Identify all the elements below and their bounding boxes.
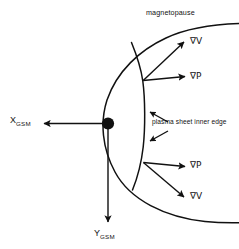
gradP-upper-arrow (143, 77, 185, 81)
gradV-lower-arrow (143, 163, 184, 198)
x-axis-label: XGSM (10, 116, 31, 127)
grad-p-upper-label: ∇P (190, 72, 202, 81)
plasma-sheet-inner-edge-boundary (132, 43, 145, 191)
grad-p-lower-label: ∇P (190, 161, 202, 170)
y-axis-label: YGSM (94, 229, 115, 240)
figure-root: magnetopause plasma sheet inner edge ∇V … (0, 0, 239, 249)
gradP-lower-arrow (143, 163, 185, 167)
lower-gradient-vectors (143, 163, 185, 198)
x-axis-subscript: GSM (16, 120, 31, 127)
grad-v-lower-label: ∇V (190, 192, 202, 201)
inner-edge-curve (132, 43, 145, 191)
plasma-sheet-inner-edge-label: plasma sheet inner edge (152, 119, 227, 126)
y-axis-subscript: GSM (100, 233, 115, 240)
magnetopause-label: magnetopause (146, 9, 195, 16)
grad-v-upper-label: ∇V (190, 37, 202, 46)
inner-edge-callout-arrows (150, 112, 168, 141)
inner-edge-callout-lower-arrow (150, 131, 168, 141)
